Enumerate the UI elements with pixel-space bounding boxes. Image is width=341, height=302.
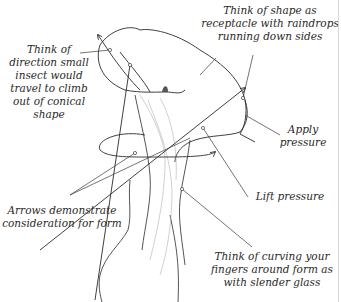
annotation-line: travel to climb [5, 82, 93, 95]
stem-shading [140, 95, 176, 275]
annotation-line: Think of shape as [200, 4, 340, 17]
annotation-line: Think of curving your [205, 250, 339, 263]
annotation-raindrops: Think of shape as receptacle with raindr… [200, 4, 340, 43]
annotation-line: shape [5, 108, 93, 121]
annotation-curving-fingers: Think of curving your fingers around for… [205, 250, 339, 289]
annotation-line: Arrows demonstrate [2, 204, 122, 217]
annotation-line: Think of [5, 43, 93, 56]
annotation-line: out of conical [5, 95, 93, 108]
annotation-line: Lift pressure [250, 190, 330, 203]
annotation-line: insect would [5, 69, 93, 82]
rim-detail [162, 86, 168, 92]
annotation-line: running down sides [200, 30, 340, 43]
stem-lines [99, 95, 190, 302]
annotation-line: with slender glass [205, 276, 339, 289]
annotation-lift-pressure: Lift pressure [250, 190, 330, 203]
annotation-line: direction small [5, 56, 93, 69]
annotation-line: fingers around form as [205, 263, 339, 276]
page-edge-divider [338, 0, 339, 302]
annotation-insect-direction: Think of direction small insect would tr… [5, 43, 93, 121]
annotation-line: receptacle with raindrops [200, 17, 340, 30]
annotation-apply-pressure: Apply pressure [278, 123, 328, 149]
annotation-line: consideration for form [2, 217, 122, 230]
annotation-line: Apply [278, 123, 328, 136]
annotation-line: pressure [278, 136, 328, 149]
annotation-arrows-form: Arrows demonstrate consideration for for… [2, 204, 122, 230]
